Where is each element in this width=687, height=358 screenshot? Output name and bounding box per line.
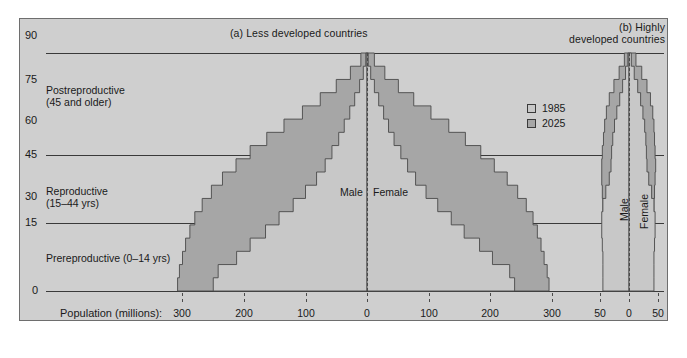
xaxis-title: Population (millions): (60, 307, 162, 319)
xtick-label-l100: 100 (297, 307, 315, 319)
xtick-mark-h50L (600, 293, 601, 302)
xtick-label-r100: 100 (420, 307, 438, 319)
xtick-label-l200: 200 (235, 307, 253, 319)
xtick-mark-l300 (182, 293, 183, 302)
xtick-label-h50L: 50 (594, 307, 606, 319)
xtick-mark-h50R (658, 293, 659, 302)
xtick-label-r200: 200 (481, 307, 499, 319)
xtick-mark-r300 (552, 293, 553, 302)
gender-label-left-male: Male (340, 186, 363, 198)
xtick-label-l0: 0 (364, 307, 370, 319)
xtick-mark-r100 (429, 293, 430, 302)
figure-root: (a) Less developed countries (b) Highly … (0, 0, 687, 358)
gender-label-right-female: Female (638, 194, 650, 229)
legend-swatch-1985 (527, 104, 536, 113)
xtick-label-r300: 300 (543, 307, 561, 319)
gender-label-left-female: Female (373, 186, 408, 198)
legend: 1985 2025 (527, 102, 565, 132)
chart-frame: (a) Less developed countries (b) Highly … (19, 18, 668, 321)
xtick-label-h0: 0 (626, 307, 632, 319)
xtick-mark-l0 (367, 293, 368, 302)
xtick-mark-l200 (244, 293, 245, 302)
xtick-mark-r200 (490, 293, 491, 302)
legend-label-2025: 2025 (542, 117, 565, 129)
xtick-mark-l100 (306, 293, 307, 302)
center-axis-left (367, 53, 368, 291)
xtick-label-l300: 300 (173, 307, 191, 319)
legend-swatch-2025 (527, 119, 536, 128)
population-pyramids (20, 19, 669, 322)
legend-item-1985: 1985 (527, 102, 565, 114)
center-axis-right (629, 53, 630, 291)
xtick-label-h50R: 50 (652, 307, 664, 319)
xtick-mark-h0 (629, 293, 630, 302)
legend-label-1985: 1985 (542, 102, 565, 114)
gender-label-right-male: Male (618, 198, 630, 221)
legend-item-2025: 2025 (527, 117, 565, 129)
